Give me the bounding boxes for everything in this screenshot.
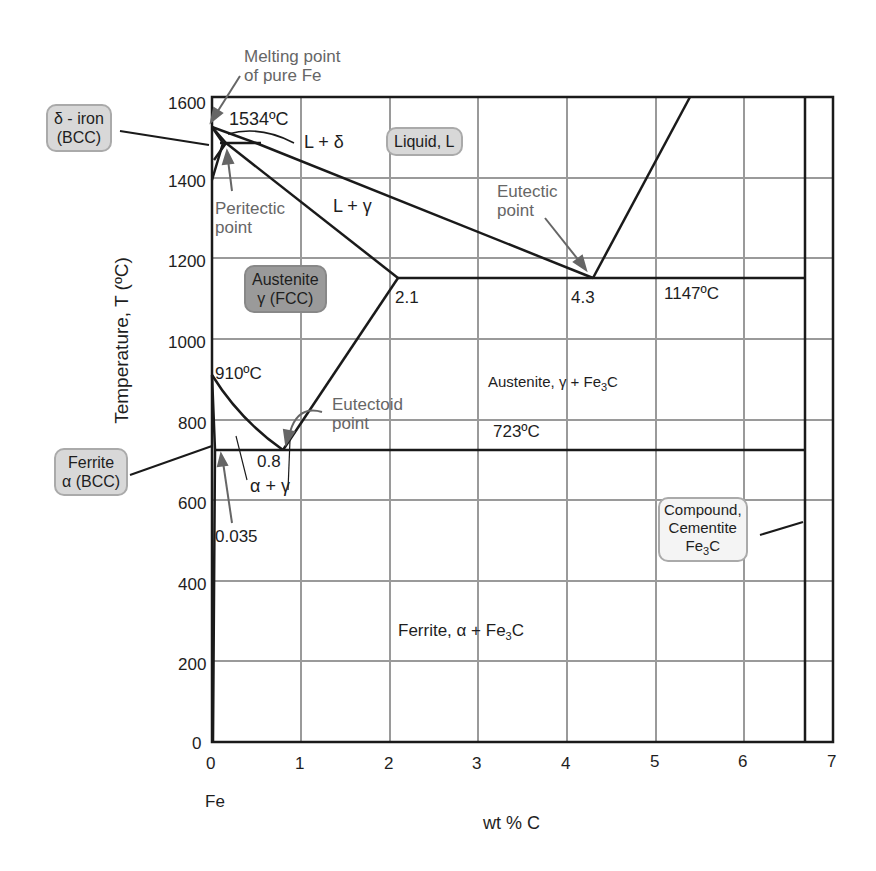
temp-910-label: 910ºC xyxy=(215,365,262,384)
eutectoid-point-annotation: Eutectoidpoint xyxy=(332,396,403,433)
y-tick-600: 600 xyxy=(178,494,206,514)
region-l-delta: L + δ xyxy=(304,133,344,153)
composition-2-1-label: 2.1 xyxy=(395,289,419,308)
y-tick-1400: 1400 xyxy=(168,172,206,192)
temp-723-label: 723ºC xyxy=(493,423,540,442)
region-liquid-box: Liquid, L xyxy=(386,127,463,156)
y-tick-400: 400 xyxy=(178,575,206,595)
melting-point-annotation: Melting pointof pure Fe xyxy=(244,48,340,85)
x-tick-2: 2 xyxy=(384,754,393,774)
x-tick-1: 1 xyxy=(295,754,304,774)
fe-origin-label: Fe xyxy=(205,793,225,812)
x-tick-5: 5 xyxy=(650,752,659,772)
x-axis-label: wt % C xyxy=(483,814,540,834)
peritectic-point-annotation: Peritecticpoint xyxy=(215,200,285,237)
callout-leaders xyxy=(120,131,803,535)
x-tick-6: 6 xyxy=(738,752,747,772)
y-tick-0: 0 xyxy=(192,734,201,754)
y-axis-label: Temperature, T (ºC) xyxy=(112,206,133,474)
x-tick-4: 4 xyxy=(561,754,570,774)
temp-1147-label: 1147ºC xyxy=(664,285,719,304)
x-tick-3: 3 xyxy=(472,754,481,774)
y-tick-800: 800 xyxy=(178,414,206,434)
x-tick-7: 7 xyxy=(827,752,836,772)
region-austenite-box: Austeniteγ (FCC) xyxy=(244,265,327,313)
region-l-gamma: L + γ xyxy=(333,197,372,217)
y-tick-1000: 1000 xyxy=(168,333,206,353)
composition-0-8-label: 0.8 xyxy=(257,453,281,472)
region-ferrite-cementite: Ferrite, α + Fe3C xyxy=(398,622,524,642)
region-austenite-cementite: Austenite, γ + Fe3C xyxy=(488,374,618,393)
y-tick-200: 200 xyxy=(178,655,206,675)
x-tick-0: 0 xyxy=(206,754,215,774)
eutectic-point-annotation: Eutecticpoint xyxy=(497,183,557,220)
cementite-compound-box: Compound,Cementite Fe3C xyxy=(658,497,748,562)
y-tick-1200: 1200 xyxy=(168,252,206,272)
y-tick-1600: 1600 xyxy=(168,94,206,114)
composition-4-3-label: 4.3 xyxy=(571,289,595,308)
composition-0-035-label: 0.035 xyxy=(215,528,258,547)
region-alpha-gamma: α + γ xyxy=(250,477,290,497)
ferrite-alpha-box: Ferriteα (BCC) xyxy=(54,448,128,496)
temp-1534-label: 1534ºC xyxy=(229,110,289,130)
delta-iron-box: δ - iron(BCC) xyxy=(46,104,112,152)
